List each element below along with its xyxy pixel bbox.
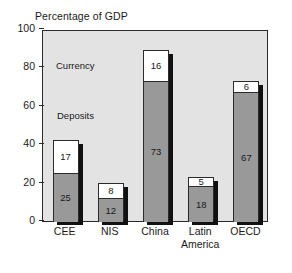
- x-axis-label-line: CEE: [54, 225, 76, 237]
- plot-area: 020406080100 17258121673518667: [42, 30, 268, 222]
- y-tick-label: 80: [23, 60, 35, 72]
- x-axis-label: OECD: [210, 225, 280, 238]
- x-axis-label-line: Latin: [189, 225, 212, 237]
- x-axis-label-line: America: [165, 238, 235, 251]
- bar-value-label: 8: [108, 186, 113, 196]
- bar-stack[interactable]: 667: [233, 81, 259, 221]
- bar-segment-deposits: 73: [144, 82, 168, 222]
- bar-segment-deposits: 12: [99, 199, 123, 222]
- bar-group: 1673: [143, 50, 169, 221]
- bar-value-label: 18: [196, 200, 207, 210]
- bar-segment-deposits: 18: [189, 187, 213, 222]
- bar-value-label: 5: [199, 177, 204, 187]
- bar-group: 518: [188, 177, 214, 221]
- y-tick-mark: [39, 28, 44, 29]
- y-tick-label: 20: [23, 176, 35, 188]
- bar-value-label: 16: [151, 61, 162, 71]
- bar-segment-currency: 16: [144, 51, 168, 82]
- bar-stack[interactable]: 518: [188, 177, 214, 221]
- x-axis-label-line: NIS: [101, 225, 119, 237]
- x-axis: CEENISChinaLatinAmericaOECD: [42, 225, 268, 270]
- y-tick-label: 40: [23, 137, 35, 149]
- y-tick-label: 60: [23, 99, 35, 111]
- bar-value-label: 25: [60, 193, 71, 203]
- bar-stack[interactable]: 1673: [143, 50, 169, 221]
- y-tick-label: 100: [17, 22, 35, 34]
- chart-figure: Percentage of GDP 020406080100 172581216…: [0, 0, 292, 273]
- bar-value-label: 67: [241, 153, 252, 163]
- bar-value-label: 17: [60, 152, 71, 162]
- bar-segment-deposits: 67: [234, 93, 258, 222]
- bar-segment-currency: 6: [234, 82, 258, 94]
- annotation-deposits: Deposits: [57, 110, 94, 121]
- bar-stack[interactable]: 1725: [53, 140, 79, 221]
- bar-group: 667: [233, 81, 259, 221]
- bar-group: 1725: [53, 140, 79, 221]
- bar-segment-deposits: 25: [54, 174, 78, 222]
- annotation-currency: Currency: [56, 60, 95, 71]
- bar-value-label: 6: [244, 82, 249, 92]
- bar-segment-currency: 17: [54, 141, 78, 174]
- chart-title: Percentage of GDP: [35, 10, 128, 22]
- bar-value-label: 73: [151, 147, 162, 157]
- bar-stack[interactable]: 812: [98, 183, 124, 221]
- bar-group: 812: [98, 183, 124, 221]
- bar-value-label: 12: [106, 206, 117, 216]
- bar-segment-currency: 5: [189, 178, 213, 188]
- x-axis-label-line: OECD: [230, 225, 260, 237]
- bar-segment-currency: 8: [99, 184, 123, 199]
